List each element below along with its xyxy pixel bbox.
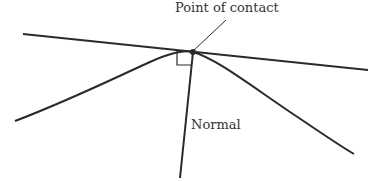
diagram-canvas: Point of contact Normal — [0, 0, 368, 181]
diagram-svg — [0, 0, 368, 181]
contact-point — [190, 49, 196, 55]
contact-leader-line — [193, 20, 226, 51]
normal-label: Normal — [191, 117, 241, 132]
point-of-contact-label: Point of contact — [175, 0, 279, 15]
normal-line — [180, 52, 193, 178]
